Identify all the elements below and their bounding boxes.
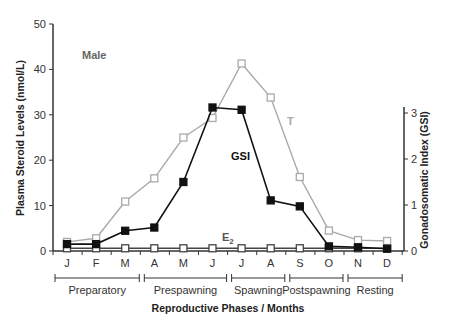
data-point-gsi xyxy=(209,104,216,111)
data-point-gsi xyxy=(296,203,303,210)
x-tick-label: M xyxy=(121,257,130,269)
data-point-t xyxy=(238,60,245,67)
phase-label: Prespawning xyxy=(154,284,218,296)
data-point-t xyxy=(296,173,303,180)
phase-label: Postspawning xyxy=(282,284,351,296)
data-point-e2 xyxy=(238,245,245,252)
data-point-gsi xyxy=(384,245,391,252)
y-tick-label: 20 xyxy=(34,154,46,166)
data-point-gsi xyxy=(325,243,332,250)
labels-layer: Male T GSI E2 Plasma Steroid Levels (nmo… xyxy=(14,49,430,314)
series-line-t xyxy=(67,63,387,241)
data-point-gsi xyxy=(355,244,362,251)
y2-axis-title: Gonadosomatic Index (GSI) xyxy=(418,111,430,249)
data-point-e2 xyxy=(267,245,274,252)
data-point-t xyxy=(355,237,362,244)
y-tick-label: 40 xyxy=(34,63,46,75)
x-tick-label: A xyxy=(151,257,159,269)
data-point-e2 xyxy=(151,245,158,252)
data-point-t xyxy=(151,175,158,182)
gsi-series-label: GSI xyxy=(231,150,250,162)
e2-series-label: E2 xyxy=(222,231,234,246)
data-point-t xyxy=(325,227,332,234)
y2-tick-label: 3 xyxy=(411,107,417,119)
x-tick-label: M xyxy=(179,257,188,269)
y-tick-label: 30 xyxy=(34,109,46,121)
data-point-t xyxy=(180,134,187,141)
x-tick-label: N xyxy=(354,257,362,269)
steroid-gsi-chart: 010203040500123JFMAMJJASONDPreparatoryPr… xyxy=(0,0,451,326)
x-tick-label: J xyxy=(64,257,70,269)
y-tick-label: 50 xyxy=(34,18,46,30)
series-line-gsi xyxy=(67,107,387,248)
y2-tick-label: 2 xyxy=(411,153,417,165)
data-point-gsi xyxy=(151,224,158,231)
x-axis-title: Reproductive Phases / Months xyxy=(152,302,305,314)
data-point-e2 xyxy=(209,245,216,252)
phase-label: Spawning xyxy=(234,284,282,296)
data-point-gsi xyxy=(267,197,274,204)
data-point-gsi xyxy=(238,106,245,113)
x-tick-label: F xyxy=(93,257,100,269)
t-series-label: T xyxy=(287,115,294,127)
data-point-gsi xyxy=(180,179,187,186)
x-tick-label: J xyxy=(239,257,245,269)
y-axis-title: Plasma Steroid Levels (nmol/L) xyxy=(14,60,26,216)
panel-label: Male xyxy=(82,49,106,61)
data-point-gsi xyxy=(122,227,129,234)
x-tick-label: J xyxy=(210,257,216,269)
y-tick-label: 10 xyxy=(34,200,46,212)
data-point-t xyxy=(384,238,391,245)
data-point-e2 xyxy=(180,245,187,252)
y2-tick-label: 0 xyxy=(411,245,417,257)
data-point-gsi xyxy=(93,241,100,248)
data-point-gsi xyxy=(64,241,71,248)
y2-tick-label: 1 xyxy=(411,199,417,211)
x-tick-label: A xyxy=(267,257,275,269)
x-tick-label: O xyxy=(325,257,334,269)
y-tick-label: 0 xyxy=(40,245,46,257)
phase-label: Resting xyxy=(356,284,393,296)
data-point-t xyxy=(122,198,129,205)
data-point-t xyxy=(267,94,274,101)
data-point-e2 xyxy=(122,245,129,252)
x-tick-label: D xyxy=(383,257,391,269)
phase-label: Preparatory xyxy=(68,284,126,296)
data-point-e2 xyxy=(296,245,303,252)
series-layer xyxy=(64,60,391,252)
x-tick-label: S xyxy=(296,257,303,269)
